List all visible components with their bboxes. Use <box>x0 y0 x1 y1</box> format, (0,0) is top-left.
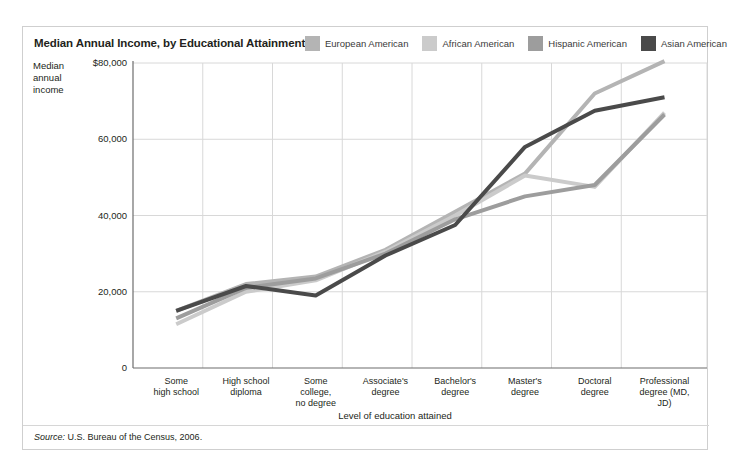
x-tick-label: Somehigh school <box>138 376 214 398</box>
y-tick-label: 40,000 <box>75 210 127 221</box>
x-tick-label-line: Doctoral <box>557 376 633 387</box>
x-tick-label: High schooldiploma <box>208 376 284 398</box>
x-tick-label-line: degree <box>487 387 563 398</box>
x-tick-label-line: Some <box>138 376 214 387</box>
source-text: U.S. Bureau of the Census, 2006. <box>68 432 203 442</box>
x-axis-title-label: Level of education attained <box>280 410 452 421</box>
x-tick-label: Doctoraldegree <box>557 376 633 398</box>
divider <box>23 425 709 426</box>
x-tick-label-line: degree <box>347 387 423 398</box>
series-line-african-american <box>176 113 664 325</box>
x-tick-label-line: High school <box>208 376 284 387</box>
y-tick-label: 60,000 <box>75 133 127 144</box>
x-tick-label: Bachelor'sdegree <box>417 376 493 398</box>
x-tick-label-line: degree <box>557 387 633 398</box>
figure-card: Median Annual Income, by Educational Att… <box>22 26 708 450</box>
x-tick-label-line: high school <box>138 387 214 398</box>
x-tick-label-line: Bachelor's <box>417 376 493 387</box>
y-tick-label: 0 <box>75 362 127 373</box>
x-tick-label-line: degree (MD, <box>626 387 702 398</box>
x-tick-label: Master'sdegree <box>487 376 563 398</box>
x-tick-label-line: no degree <box>278 398 354 409</box>
x-tick-label-line: JD) <box>626 398 702 409</box>
x-tick-label-line: degree <box>417 387 493 398</box>
x-tick-label-line: college, <box>278 387 354 398</box>
x-tick-label: Somecollege,no degree <box>278 376 354 409</box>
y-tick-label: $80,000 <box>75 57 127 68</box>
y-tick-label: 20,000 <box>75 286 127 297</box>
x-tick-label: Associate'sdegree <box>347 376 423 398</box>
source-label: Source: <box>34 432 65 442</box>
source-note: Source: U.S. Bureau of the Census, 2006. <box>34 432 202 442</box>
x-tick-label-line: Some <box>278 376 354 387</box>
x-tick-label-line: Master's <box>487 376 563 387</box>
x-tick-label-line: diploma <box>208 387 284 398</box>
x-tick-label-line: Professional <box>626 376 702 387</box>
x-tick-label-line: Associate's <box>347 376 423 387</box>
series-line-asian-american <box>176 97 664 310</box>
x-axis-title: Level of education attained <box>23 410 709 421</box>
x-tick-label: Professionaldegree (MD,JD) <box>626 376 702 409</box>
